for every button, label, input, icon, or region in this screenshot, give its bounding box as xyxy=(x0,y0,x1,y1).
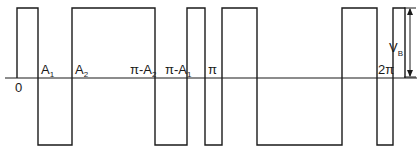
label-a1: A1 xyxy=(41,62,55,79)
label-a2: A2 xyxy=(75,62,89,79)
amplitude-arrow xyxy=(404,8,416,77)
label-zero: 0 xyxy=(15,80,22,95)
amplitude-label: VB xyxy=(389,40,403,58)
label-pi-minus-a1: π-A1 xyxy=(165,62,192,79)
label-pi-minus-a2: π-A2 xyxy=(130,62,157,79)
label-pi: π xyxy=(208,62,217,77)
waveform-diagram: VB 0 A1 A2 π-A2 π-A1 π 2π xyxy=(0,0,420,152)
label-two-pi: 2π xyxy=(378,62,394,77)
